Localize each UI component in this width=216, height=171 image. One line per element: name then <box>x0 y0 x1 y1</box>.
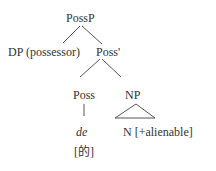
node-n-alienable: N [+alienable] <box>123 125 193 139</box>
tree-edges <box>0 0 216 171</box>
node-de-gloss: [的] <box>74 145 94 159</box>
edge-possbar-poss <box>80 59 100 77</box>
node-de: de <box>76 125 87 139</box>
edge-possbar-np <box>102 59 121 77</box>
edge-posp-dp <box>63 26 80 43</box>
np-triangle <box>115 104 155 118</box>
node-poss-bar: Poss' <box>96 45 120 59</box>
node-poss: Poss <box>73 88 95 102</box>
node-dp-possessor: DP (possessor) <box>8 45 80 59</box>
edge-posp-possbar <box>82 26 102 44</box>
node-possp: PossP <box>66 11 95 25</box>
node-np: NP <box>125 88 140 102</box>
